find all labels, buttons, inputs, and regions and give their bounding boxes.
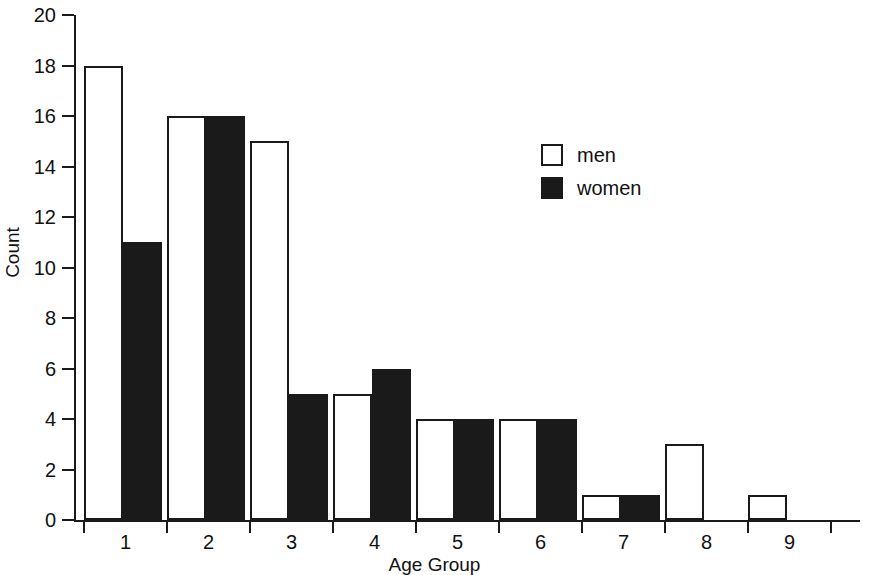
legend-label-men: men xyxy=(577,144,616,166)
y-tick-mark xyxy=(62,166,74,168)
bars-layer xyxy=(74,15,860,520)
bar-men-group-1 xyxy=(84,66,123,521)
y-tick-mark xyxy=(62,469,74,471)
bar-men-group-9 xyxy=(748,495,787,520)
x-axis-line xyxy=(74,520,860,522)
y-tick-mark xyxy=(62,216,74,218)
y-tick-mark xyxy=(62,65,74,67)
x-tick-label: 9 xyxy=(784,531,795,553)
y-axis-title: Count xyxy=(2,203,23,303)
y-tick-mark xyxy=(62,519,74,521)
x-tick-label: 8 xyxy=(701,531,712,553)
y-tick-mark xyxy=(62,317,74,319)
y-tick-label: 4 xyxy=(0,409,56,429)
legend-item-women: women xyxy=(541,171,641,204)
legend-item-men: men xyxy=(541,138,641,171)
x-tick-mark xyxy=(747,522,749,533)
x-tick-mark xyxy=(498,522,500,533)
y-tick-label: 0 xyxy=(0,510,56,530)
x-tick-mark xyxy=(249,522,251,533)
bar-men-group-3 xyxy=(250,141,289,520)
y-tick-label: 8 xyxy=(0,308,56,328)
x-tick-mark xyxy=(332,522,334,533)
x-tick-mark xyxy=(664,522,666,533)
bar-men-group-4 xyxy=(333,394,372,520)
legend: men women xyxy=(541,138,641,204)
x-tick-mark xyxy=(581,522,583,533)
x-tick-label: 7 xyxy=(618,531,629,553)
x-tick-label: 5 xyxy=(452,531,463,553)
legend-swatch-men-icon xyxy=(541,144,563,166)
x-tick-mark xyxy=(415,522,417,533)
x-tick-label: 1 xyxy=(120,531,131,553)
legend-swatch-women-icon xyxy=(541,177,563,199)
bar-women-group-1 xyxy=(123,242,162,520)
x-tick-mark xyxy=(830,522,832,533)
x-tick-label: 6 xyxy=(535,531,546,553)
bar-men-group-5 xyxy=(416,419,455,520)
bar-men-group-7 xyxy=(582,495,621,520)
bar-women-group-7 xyxy=(621,495,660,520)
x-tick-mark xyxy=(166,522,168,533)
y-tick-label: 18 xyxy=(0,56,56,76)
bar-men-group-6 xyxy=(499,419,538,520)
y-tick-label: 16 xyxy=(0,106,56,126)
y-tick-label: 6 xyxy=(0,359,56,379)
bar-women-group-2 xyxy=(206,116,245,520)
x-tick-label: 3 xyxy=(286,531,297,553)
y-tick-label: 2 xyxy=(0,460,56,480)
y-tick-label: 14 xyxy=(0,157,56,177)
bar-men-group-2 xyxy=(167,116,206,520)
bar-women-group-6 xyxy=(538,419,577,520)
y-tick-label: 20 xyxy=(0,5,56,25)
y-tick-mark xyxy=(62,368,74,370)
y-tick-mark xyxy=(62,115,74,117)
bar-women-group-4 xyxy=(372,369,411,521)
x-tick-label: 2 xyxy=(203,531,214,553)
y-tick-mark xyxy=(62,267,74,269)
x-tick-mark xyxy=(83,522,85,533)
bar-chart-figure: 02468101214161820 Count 123456789 Age Gr… xyxy=(0,0,869,575)
x-tick-label: 4 xyxy=(369,531,380,553)
bar-men-group-8 xyxy=(665,444,704,520)
legend-label-women: women xyxy=(577,177,641,199)
x-axis-title: Age Group xyxy=(0,554,869,575)
y-tick-mark xyxy=(62,418,74,420)
y-tick-mark xyxy=(62,14,74,16)
bar-women-group-5 xyxy=(455,419,494,520)
bar-women-group-3 xyxy=(289,394,328,520)
